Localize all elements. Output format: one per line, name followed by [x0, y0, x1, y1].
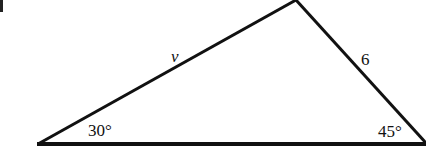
angle-right-label: 45° [378, 122, 402, 141]
side-left-label: v [171, 47, 179, 66]
side-right [296, 0, 426, 143]
edge-mark [0, 0, 3, 12]
side-left [38, 0, 296, 144]
side-right-label: 6 [361, 50, 370, 69]
triangle-diagram: v 6 30° 45° [0, 0, 426, 146]
angle-left-label: 30° [88, 121, 112, 140]
